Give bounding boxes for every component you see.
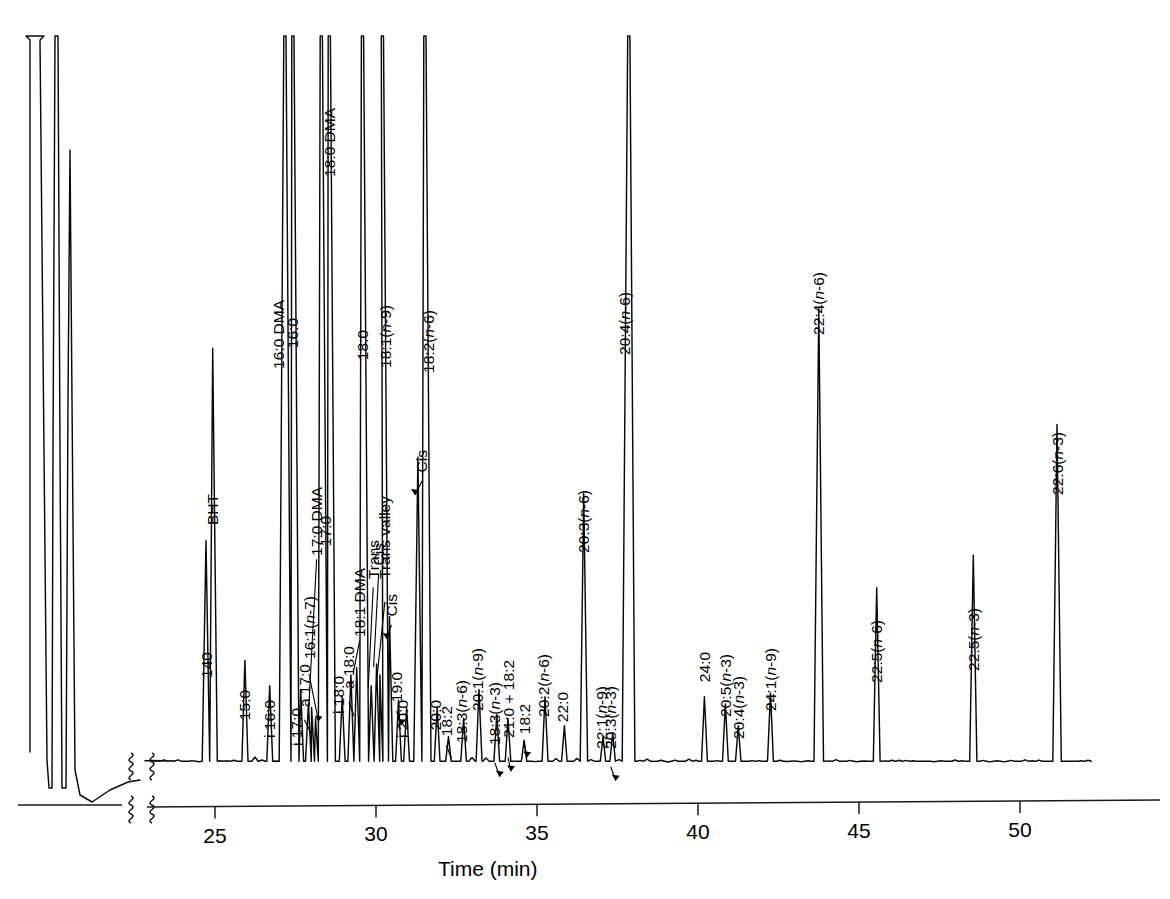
peak-label-cis-b: Cis bbox=[383, 594, 400, 617]
peak-label-p18-2b: 18:2 bbox=[516, 704, 533, 734]
peak-label-p20-3n6: 20:3(n-6) bbox=[575, 490, 592, 553]
axis-tick-label-25: 25 bbox=[203, 824, 226, 847]
peak-label-p22-5n6: 22:5(n-6) bbox=[868, 620, 885, 683]
peak-label-i16-0: i 16:0 bbox=[261, 700, 278, 738]
time-axis bbox=[129, 753, 1160, 823]
peak-label-p22-4n6: 22:4(n-6) bbox=[810, 272, 827, 335]
time-axis-line bbox=[147, 800, 1160, 807]
break-squiggle-trace-left bbox=[129, 753, 133, 780]
peak-label-p20-1n9: 20:1(n-9) bbox=[469, 648, 486, 711]
solvent-region-trace bbox=[18, 36, 140, 805]
peak-label-bht: BHT bbox=[204, 493, 221, 525]
peak-label-p21-0-18-2: 21:0 + 18:2 bbox=[500, 660, 517, 738]
leader-line-trans bbox=[368, 588, 373, 689]
peak-label-a17-0: a 17:0 bbox=[296, 664, 313, 707]
peak-label-p20-4n6: 20:4(n-6) bbox=[616, 292, 633, 355]
leader-arrow-p18-2b bbox=[523, 751, 531, 757]
peak-label-i17-0: i 17:0 bbox=[288, 708, 305, 746]
break-squiggle-trace-right bbox=[150, 753, 154, 780]
axis-tick-label-45: 45 bbox=[847, 819, 870, 842]
peak-label-p16-0: 16:0 bbox=[284, 318, 301, 349]
chromatogram-plot: 253035404550 140BHT15:0i 16:016:0 DMA16:… bbox=[0, 0, 1170, 899]
break-squiggle-axis-left bbox=[129, 796, 133, 823]
peak-label-p15-0: 15:0 bbox=[236, 690, 253, 721]
peak-label-p18-2n6: 18:2(n-6) bbox=[420, 310, 437, 373]
peak-label-dma18-0: 18:0 DMA bbox=[321, 107, 338, 177]
peak-label-p20-2n6: 20:2(n-6) bbox=[535, 654, 552, 717]
axis-tick-label-30: 30 bbox=[364, 822, 387, 845]
peak-label-p24-1n9: 24:1(n-9) bbox=[762, 648, 779, 711]
peak-label-p24-0: 24:0 bbox=[696, 652, 713, 683]
peak-label-p16-1n7: 16:1(n-7) bbox=[301, 596, 318, 659]
peak-label-l140: 140 bbox=[198, 652, 215, 678]
chromatogram-trace bbox=[145, 36, 1091, 762]
peak-label-p19-0: 19:0 bbox=[388, 672, 405, 703]
break-squiggle-axis-right bbox=[150, 796, 154, 823]
leader-arrow-p20-3n3 bbox=[612, 775, 620, 781]
peak-label-cis-c: Cis bbox=[413, 450, 430, 473]
peak-label-p18-1n9: 18:1(n-9) bbox=[377, 305, 394, 368]
leader-arrow-p18-3n3 bbox=[496, 771, 504, 777]
peak-label-p22-0: 22:0 bbox=[554, 692, 571, 723]
peak-label-p18-0: 18:0 bbox=[354, 330, 371, 361]
trace-path bbox=[145, 36, 1091, 762]
x-axis-title: Time (min) bbox=[438, 857, 538, 880]
peak-label-a18-0: a 18:0 bbox=[340, 646, 357, 689]
peak-label-p20-3n3: 20:3(n-3) bbox=[602, 686, 619, 749]
peak-label-i20-0: i 20:0 bbox=[394, 700, 411, 738]
axis-tick-label-35: 35 bbox=[525, 821, 548, 844]
peak-label-p22-5n3: 22:5(n-3) bbox=[965, 608, 982, 671]
axis-tick-labels: 253035404550 bbox=[203, 818, 1031, 847]
leader-arrow-p21-0-18-2 bbox=[507, 765, 515, 771]
leader-line-cis-a bbox=[374, 574, 379, 667]
axis-tick-label-40: 40 bbox=[686, 820, 709, 843]
peak-label-p20-4n3: 20:4(n-3) bbox=[730, 676, 747, 739]
solvent-peaks-path bbox=[26, 36, 140, 802]
chromatogram-figure: 253035404550 140BHT15:0i 16:016:0 DMA16:… bbox=[0, 0, 1170, 899]
peak-label-p17-0: 17:0 bbox=[317, 516, 334, 547]
axis-tick-label-50: 50 bbox=[1008, 818, 1031, 841]
peak-label-trans-valley: Trans valley bbox=[376, 496, 393, 579]
peak-label-p22-6n3: 22:6(n-3) bbox=[1049, 432, 1066, 495]
